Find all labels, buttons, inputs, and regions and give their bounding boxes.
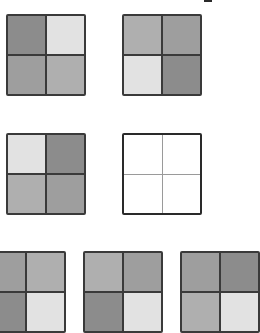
grid-middle-right-empty	[122, 133, 202, 215]
grid-bottom-middle	[83, 251, 163, 333]
grid-cell-dark	[0, 293, 25, 331]
clipped-glyph-mark	[204, 0, 212, 2]
grid-cell-medium	[47, 56, 84, 94]
grid-cell-light	[8, 135, 45, 173]
grid-cell-medium-dark	[124, 253, 161, 291]
grid-cell-dark	[163, 56, 200, 94]
grid-cell-empty	[124, 135, 162, 174]
grid-cell-dark	[8, 16, 45, 54]
grid-cell-empty	[124, 175, 162, 214]
grid-top-right	[122, 14, 202, 96]
grid-top-left	[6, 14, 86, 96]
grid-bottom-right	[180, 251, 260, 333]
grid-cell-medium-dark	[163, 16, 200, 54]
grid-cell-light	[47, 16, 84, 54]
grid-cell-light	[124, 56, 161, 94]
grid-bottom-left	[0, 251, 66, 333]
grid-cell-light	[221, 293, 258, 331]
grid-cell-medium	[8, 175, 45, 213]
grid-cell-medium-dark	[47, 175, 84, 213]
grid-cell-medium-dark	[0, 253, 25, 291]
grid-cell-medium	[27, 253, 64, 291]
grid-cell-medium	[85, 253, 122, 291]
grid-cell-dark	[47, 135, 84, 173]
grid-cell-empty	[163, 175, 201, 214]
grid-cell-empty	[163, 135, 201, 174]
grid-cell-medium-dark	[8, 56, 45, 94]
grid-cell-medium	[124, 16, 161, 54]
grid-cell-dark	[85, 293, 122, 331]
grid-cell-light	[27, 293, 64, 331]
grid-cell-dark	[221, 253, 258, 291]
grid-cell-medium	[182, 293, 219, 331]
grid-cell-medium-dark	[182, 253, 219, 291]
grid-middle-left	[6, 133, 86, 215]
grid-cell-light	[124, 293, 161, 331]
